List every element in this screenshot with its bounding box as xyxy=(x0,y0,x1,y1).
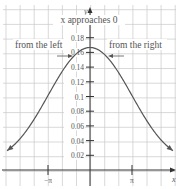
y-tick-label: 0.06 xyxy=(71,122,84,131)
y-tick-label: 0.18 xyxy=(71,34,84,43)
y-tick-label: 0.02 xyxy=(71,151,84,160)
x-tick-label: −π xyxy=(44,176,52,185)
annotation-from-the-right: from the right xyxy=(109,40,162,50)
y-tick-label: 0.04 xyxy=(71,137,84,146)
y-tick-label: 0.08 xyxy=(71,107,84,116)
x-tick-label: π xyxy=(130,176,134,185)
y-tick-label: 0.14 xyxy=(71,63,84,72)
y-tick-label: 0.12 xyxy=(71,78,84,87)
annotation-from-the-left: from the left xyxy=(15,40,63,50)
x-axis-label: x xyxy=(171,175,176,184)
annotation-x-approaches-0: x approaches 0 xyxy=(61,15,118,25)
y-tick-label: 0.1 xyxy=(75,93,85,102)
arrow-left-icon xyxy=(108,54,113,58)
chart: x y 0.020.040.060.080.10.120.140.160.18 … xyxy=(0,0,178,189)
x-ticks: −ππ xyxy=(44,165,134,185)
